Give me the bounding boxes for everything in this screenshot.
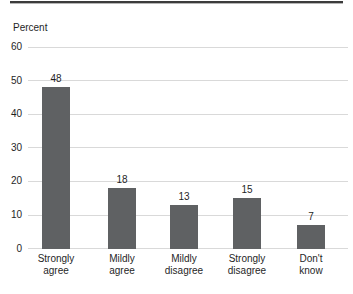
x-category-label-line: know	[276, 265, 346, 277]
bar-value-label-3: 15	[215, 184, 279, 196]
x-category-label-line: Don't	[276, 253, 346, 265]
y-tick-label-40: 40	[0, 108, 22, 120]
gridline-60	[28, 47, 348, 48]
x-category-label-1: Mildlyagree	[87, 253, 157, 277]
y-tick-label-30: 30	[0, 142, 22, 154]
x-category-label-3: Stronglydisagree	[212, 253, 282, 277]
chart-top-rule	[10, 1, 343, 4]
y-tick-label-0: 0	[0, 243, 22, 255]
x-category-label-line: agree	[87, 265, 157, 277]
bar-value-label-2: 13	[152, 191, 216, 203]
bar-value-label-0: 48	[24, 73, 88, 85]
y-tick-label-20: 20	[0, 175, 22, 187]
y-axis-title: Percent	[13, 22, 47, 33]
y-tick-label-60: 60	[0, 41, 22, 53]
x-category-label-line: Mildly	[87, 253, 157, 265]
x-category-label-line: disagree	[149, 265, 219, 277]
x-category-label-line: agree	[21, 265, 91, 277]
x-category-label-4: Don'tknow	[276, 253, 346, 277]
y-tick-label-50: 50	[0, 75, 22, 87]
bar-1	[108, 188, 136, 249]
x-category-label-line: Strongly	[21, 253, 91, 265]
bar-chart: Percent 010203040506048Stronglyagree18Mi…	[0, 0, 353, 294]
x-category-label-line: Mildly	[149, 253, 219, 265]
bar-0	[42, 87, 70, 248]
bar-4	[297, 225, 325, 249]
bar-value-label-1: 18	[90, 174, 154, 186]
bar-value-label-4: 7	[279, 211, 343, 223]
gridline-40	[28, 114, 348, 115]
x-category-label-0: Stronglyagree	[21, 253, 91, 277]
x-category-label-2: Mildlydisagree	[149, 253, 219, 277]
x-category-label-line: Strongly	[212, 253, 282, 265]
bar-2	[170, 205, 198, 249]
gridline-30	[28, 147, 348, 148]
y-tick-label-10: 10	[0, 209, 22, 221]
gridline-20	[28, 181, 348, 182]
bar-3	[233, 198, 261, 248]
x-category-label-line: disagree	[212, 265, 282, 277]
